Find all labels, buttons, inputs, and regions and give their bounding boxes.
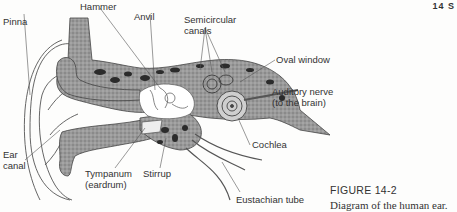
figure-caption: Diagram of the human ear. xyxy=(330,199,448,211)
label-auditory-nerve-line1: Auditory nerve xyxy=(272,86,333,97)
label-oval-window: Oval window xyxy=(276,54,330,65)
label-pinna: Pinna xyxy=(3,16,27,27)
ear-diagram xyxy=(0,0,457,212)
label-auditory-nerve-line2: (to the brain) xyxy=(272,97,326,108)
label-semicircular-canals-line2: canals xyxy=(184,25,211,36)
label-ear-canal-line1: Ear xyxy=(3,149,18,160)
label-anvil: Anvil xyxy=(134,11,155,22)
label-semicircular-canals-line1: Semicircular xyxy=(184,14,236,25)
label-stirrup: Stirrup xyxy=(143,168,171,179)
label-hammer: Hammer xyxy=(80,1,116,12)
label-tympanum-line2: (eardrum) xyxy=(85,179,127,190)
label-cochlea: Cochlea xyxy=(252,139,287,150)
figure-number: FIGURE 14-2 xyxy=(330,184,397,196)
label-eustachian-tube: Eustachian tube xyxy=(236,194,304,205)
label-tympanum-line1: Tympanum xyxy=(85,168,132,179)
label-ear-canal-line2: canal xyxy=(3,160,26,171)
tympanum-shape xyxy=(142,120,162,134)
textbook-page: 14 S xyxy=(0,0,457,212)
cochlea-shape xyxy=(217,91,247,121)
eustachian-tube-shape xyxy=(186,134,262,200)
